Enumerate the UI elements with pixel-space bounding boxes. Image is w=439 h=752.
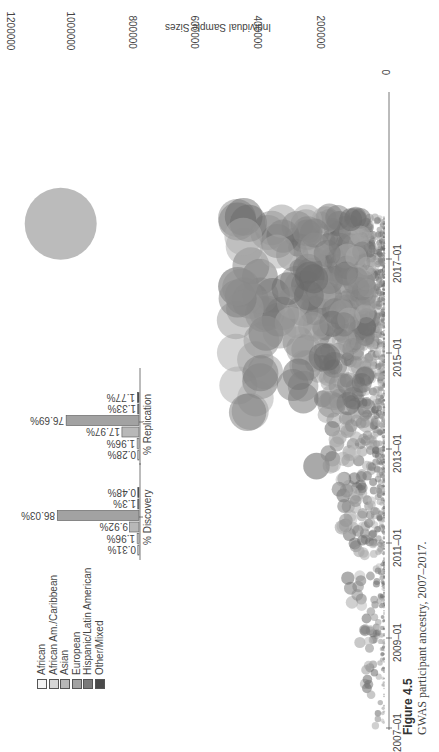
sample-size-axis-title: Individual Sample Sizes	[148, 22, 288, 33]
bar-value-label: 1.33%	[92, 403, 136, 414]
tick-2017-01: 2017–01	[392, 244, 403, 283]
study-bubble	[375, 710, 381, 716]
legend-item: African	[36, 644, 47, 689]
study-bubble	[383, 375, 385, 377]
bar-value-label: 86.03%	[11, 510, 55, 521]
study-bubble	[380, 324, 384, 328]
study-bubble	[383, 661, 385, 663]
study-bubble	[383, 294, 385, 296]
study-bubble	[260, 235, 294, 269]
study-bubble	[360, 550, 370, 560]
study-bubble	[383, 406, 385, 408]
legend-label: African Am./Caribbean	[48, 575, 59, 675]
study-bubble	[381, 598, 385, 602]
study-bubble	[383, 455, 385, 457]
legend-label: Other/Mixed	[94, 621, 105, 675]
bar	[138, 545, 139, 555]
study-bubble	[383, 477, 385, 479]
study-bubble	[383, 312, 385, 314]
study-bubble	[383, 363, 385, 365]
study-bubble	[376, 304, 382, 310]
study-bubble	[381, 545, 385, 549]
study-bubble	[380, 603, 384, 607]
bar	[66, 416, 139, 426]
bar	[138, 499, 139, 509]
legend-item: European	[71, 632, 82, 689]
study-bubble	[372, 722, 379, 729]
study-bubble	[378, 700, 383, 705]
study-bubble	[383, 505, 385, 507]
study-bubble	[229, 394, 266, 431]
legend-item: Other/Mixed	[94, 621, 105, 689]
study-bubble	[345, 246, 367, 268]
study-bubble	[382, 520, 385, 523]
study-bubble	[383, 470, 385, 472]
study-bubble	[372, 447, 379, 454]
study-bubble	[383, 299, 385, 301]
study-bubble	[314, 344, 341, 371]
study-bubble	[377, 291, 383, 297]
study-bubble	[383, 432, 385, 434]
study-bubble	[383, 441, 385, 443]
study-bubble	[383, 434, 385, 436]
study-bubble	[272, 272, 305, 305]
legend-item: Hispanic/Latin American	[82, 568, 93, 689]
study-bubble	[382, 645, 385, 648]
study-bubble	[364, 637, 373, 646]
legend-label: European	[71, 632, 82, 675]
bar-value-label: 0.28%	[92, 449, 136, 460]
bubble-series	[0, 0, 439, 729]
study-bubble	[374, 233, 381, 240]
study-bubble	[375, 350, 381, 356]
study-bubble	[350, 495, 362, 507]
study-bubble	[298, 312, 327, 341]
study-bubble	[380, 357, 384, 361]
study-bubble	[383, 361, 385, 363]
study-bubble	[383, 390, 385, 392]
study-bubble	[383, 347, 385, 349]
study-bubble	[383, 587, 385, 589]
study-bubble	[377, 251, 383, 257]
bar-value-label: 1.77%	[91, 392, 135, 403]
study-bubble	[339, 208, 362, 231]
replication-title: % Replication	[142, 394, 153, 455]
legend-swatch	[71, 679, 81, 689]
study-bubble	[341, 454, 354, 467]
study-bubble	[383, 569, 385, 571]
study-bubble	[383, 671, 385, 673]
study-bubble	[383, 222, 385, 224]
study-bubble	[369, 478, 377, 486]
study-bubble	[383, 351, 385, 353]
study-bubble	[363, 675, 373, 685]
study-bubble	[303, 453, 330, 480]
bar	[137, 439, 139, 449]
study-bubble	[383, 705, 385, 707]
study-bubble	[376, 405, 382, 411]
study-bubble	[383, 584, 385, 586]
study-bubble	[383, 216, 385, 218]
study-bubble	[383, 239, 385, 241]
bar	[138, 404, 139, 414]
study-bubble	[381, 581, 384, 584]
study-bubble	[342, 338, 364, 360]
study-bubble	[376, 535, 382, 541]
study-bubble	[383, 395, 385, 397]
study-bubble	[376, 514, 382, 520]
legend-item: Asian	[59, 650, 70, 689]
study-bubble	[383, 592, 385, 594]
study-bubble	[383, 415, 385, 417]
study-bubble	[377, 441, 383, 447]
bar-value-label: 17.97%	[76, 426, 120, 437]
figure-caption: Figure 4.5 GWAS participant ancestry, 20…	[401, 541, 430, 735]
study-bubble	[383, 378, 385, 380]
study-bubble	[380, 331, 384, 335]
legend-label: Asian	[59, 650, 70, 675]
study-bubble	[375, 398, 381, 404]
study-bubble	[383, 688, 385, 690]
study-bubble	[382, 531, 385, 534]
study-bubble	[383, 273, 385, 275]
study-bubble	[382, 707, 385, 710]
study-bubble	[376, 488, 382, 494]
study-bubble	[383, 613, 385, 615]
bar-value-label: 0.48%	[92, 487, 136, 498]
